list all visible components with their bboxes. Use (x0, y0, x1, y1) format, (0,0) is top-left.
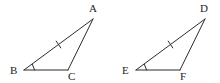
vertex-label-f: F (180, 70, 186, 82)
vertex-label-b: B (10, 64, 17, 76)
tick-mark-segment-ab (56, 41, 61, 48)
vertex-label-d: D (200, 2, 208, 14)
segment-fd (180, 19, 205, 70)
triangle-def: D E F (122, 2, 208, 82)
triangle-abc: A B C (10, 2, 97, 82)
geometry-figure: A B C D E F (0, 0, 220, 83)
vertex-label-c: C (68, 70, 75, 82)
vertex-label-a: A (89, 2, 97, 14)
angle-mark-b (32, 64, 34, 70)
geometry-canvas: A B C D E F (0, 0, 220, 83)
segment-ca (68, 19, 93, 70)
vertex-label-e: E (122, 64, 129, 76)
angle-mark-e (144, 64, 146, 70)
tick-mark-segment-de (168, 41, 173, 48)
